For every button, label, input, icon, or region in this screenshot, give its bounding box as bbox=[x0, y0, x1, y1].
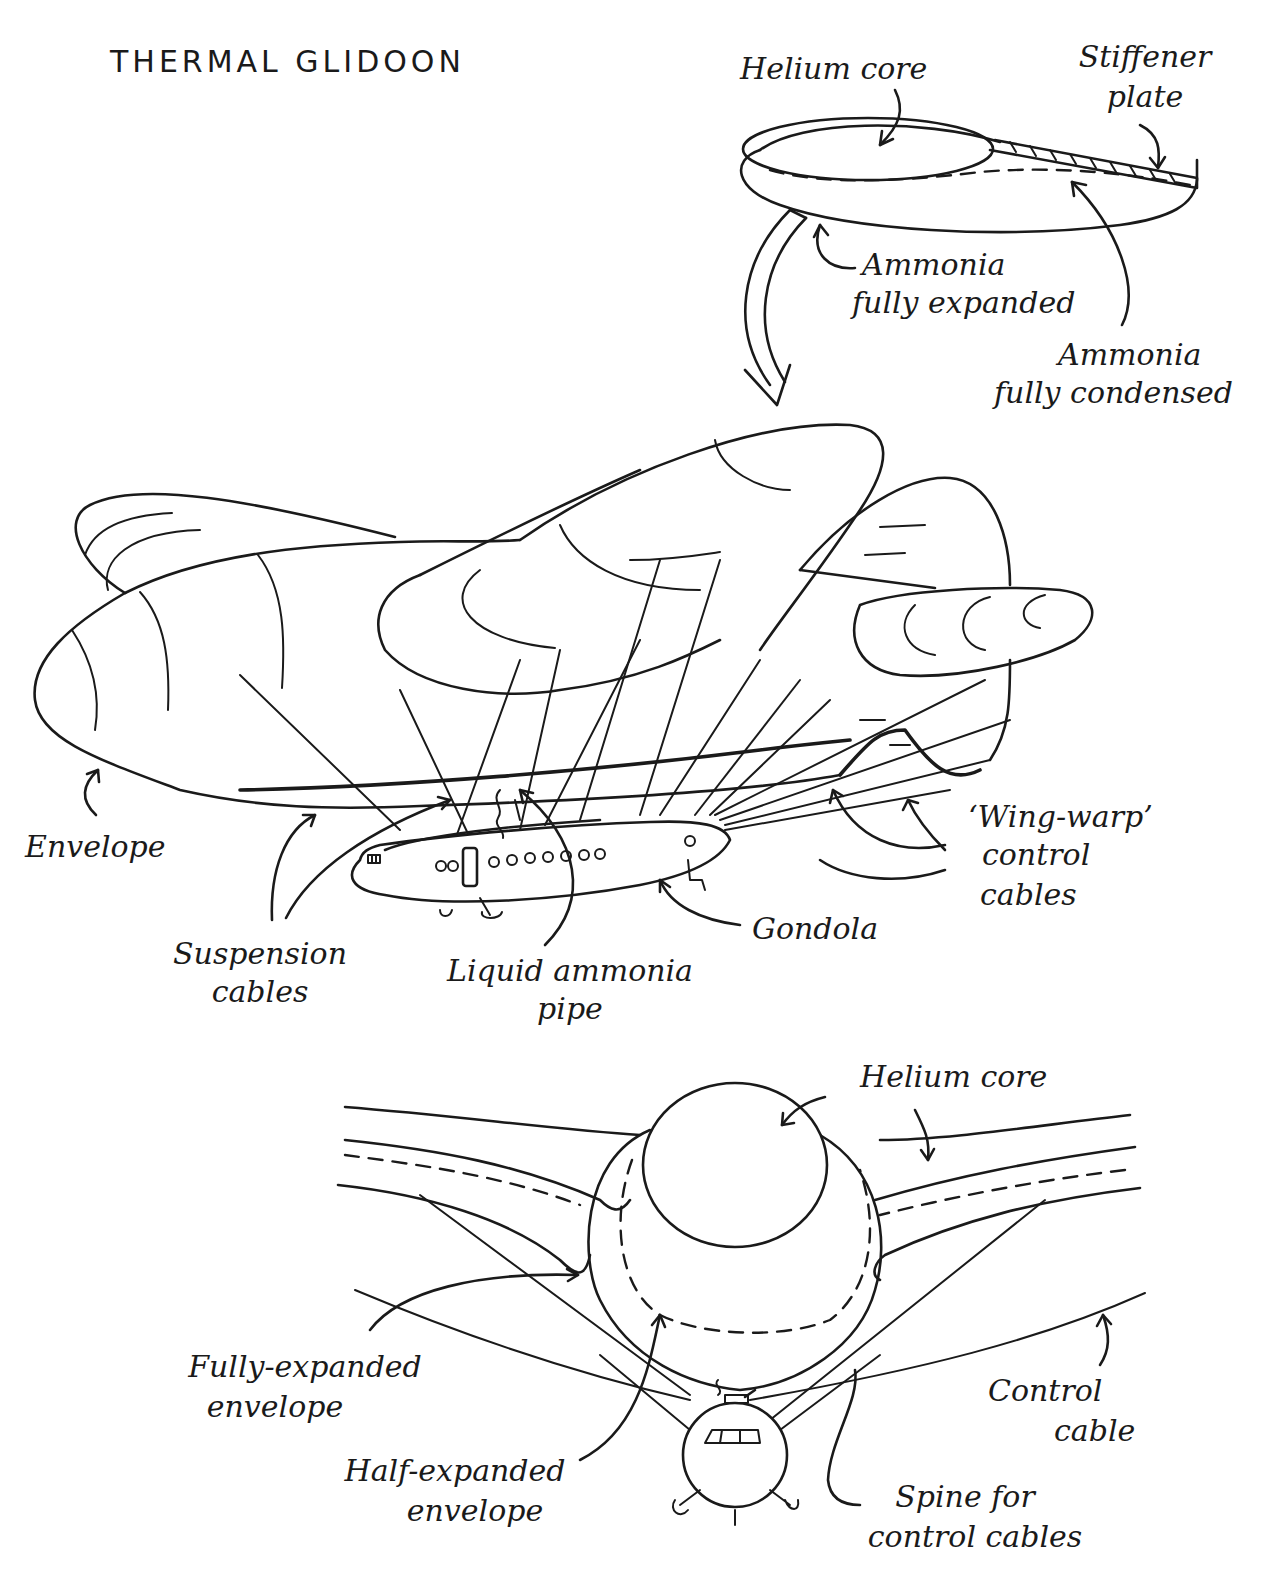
label-fully-expanded-line2: envelope bbox=[165, 1388, 385, 1425]
sketch-drawing bbox=[0, 0, 1278, 1572]
label-wing-warp-line3: cables bbox=[980, 876, 1077, 913]
thermal-glidoon-diagram: THERMAL GLIDOON bbox=[0, 0, 1278, 1572]
label-wing-warp-line2: control bbox=[982, 836, 1090, 873]
label-suspension-cables-line2: cables bbox=[160, 973, 360, 1010]
label-suspension-cables-line1: Suspension bbox=[160, 935, 360, 972]
side-view-envelope bbox=[35, 425, 1093, 840]
label-half-expanded-line2: envelope bbox=[345, 1492, 605, 1529]
label-liquid-ammonia-pipe-line2: pipe bbox=[420, 990, 720, 1027]
label-liquid-ammonia-pipe-line1: Liquid ammonia bbox=[420, 952, 720, 989]
label-half-expanded-line1: Half-expanded bbox=[325, 1452, 585, 1489]
label-helium-core-front: Helium core bbox=[860, 1058, 1047, 1095]
label-ammonia-condensed-line2: fully condensed bbox=[994, 374, 1233, 411]
label-envelope: Envelope bbox=[25, 828, 166, 865]
label-gondola: Gondola bbox=[752, 910, 878, 947]
label-control-cable-line1: Control bbox=[988, 1372, 1102, 1409]
label-stiffener-plate-line1: Stiffener bbox=[1070, 38, 1220, 75]
label-spine-line1: Spine for bbox=[850, 1478, 1080, 1515]
label-wing-warp-line1: ‘Wing-warp’ bbox=[968, 798, 1153, 835]
label-fully-expanded-line1: Fully-expanded bbox=[165, 1348, 445, 1385]
label-control-cable-line2: cable bbox=[1054, 1412, 1135, 1449]
label-ammonia-expanded-line2: fully expanded bbox=[852, 284, 1075, 321]
label-ammonia-condensed-line1: Ammonia bbox=[1058, 336, 1201, 373]
label-stiffener-plate-line2: plate bbox=[1070, 78, 1220, 115]
label-helium-core-top: Helium core bbox=[740, 50, 927, 87]
label-ammonia-expanded-line1: Ammonia bbox=[862, 246, 1005, 283]
label-spine-line2: control cables bbox=[845, 1518, 1105, 1555]
